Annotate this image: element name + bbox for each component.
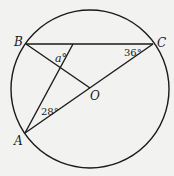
label-o: O: [90, 89, 100, 103]
label-b: B: [13, 35, 23, 49]
label-a: A: [13, 134, 23, 148]
angle-label-28: 28°: [41, 106, 59, 117]
geometry-diagram: B C A O a° 28° 36°: [0, 0, 174, 176]
angle-label-36: 36°: [124, 47, 142, 58]
angle-label-a: a°: [55, 52, 67, 65]
segment-bo: [26, 44, 90, 88]
label-c: C: [157, 36, 166, 50]
circle-diagram: B C A O a° 28° 36°: [0, 0, 174, 176]
